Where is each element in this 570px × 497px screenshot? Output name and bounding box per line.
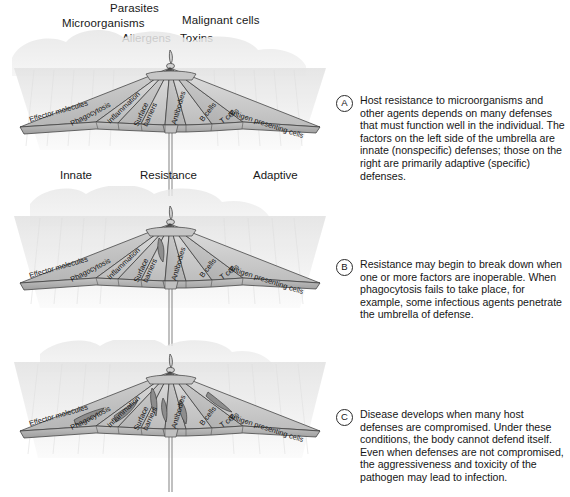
caption-a: A Host resistance to microorganisms and …: [336, 94, 568, 182]
caption-text-c: Disease develops when many host defenses…: [360, 408, 568, 484]
caption-text-b: Resistance may begin to break down when …: [360, 258, 568, 321]
threat-label-parasites: Parasites: [110, 2, 159, 14]
immunology-umbrella-figure: Parasites Microorganisms Malignant cells…: [0, 0, 570, 497]
umbrella-hub: [146, 375, 196, 384]
umbrella-panel-c: Effector molecules Phagocytosis Inflamma…: [0, 340, 340, 497]
caption-text-a: Host resistance to microorganisms and ot…: [360, 94, 568, 182]
caption-marker-b: B: [336, 259, 353, 276]
umbrella-hub: [146, 71, 196, 80]
threat-label-malignant-cells: Malignant cells: [182, 14, 260, 26]
umbrella-hub: [146, 227, 196, 236]
ground-label-adaptive: Adaptive: [253, 169, 298, 181]
caption-marker-c: C: [336, 409, 353, 426]
umbrella-panel-a: Effector molecules Phagocytosis Inflamma…: [0, 30, 340, 198]
ground-label-resistance: Resistance: [140, 169, 197, 181]
caption-marker-a: A: [336, 95, 353, 112]
caption-c: C Disease develops when many host defens…: [336, 408, 568, 484]
caption-b: B Resistance may begin to break down whe…: [336, 258, 568, 321]
ground-label-innate: Innate: [60, 169, 92, 181]
threat-label-microorganisms: Microorganisms: [62, 17, 145, 29]
umbrella-panel-b: Effector molecules Phagocytosis Inflamma…: [0, 186, 340, 354]
